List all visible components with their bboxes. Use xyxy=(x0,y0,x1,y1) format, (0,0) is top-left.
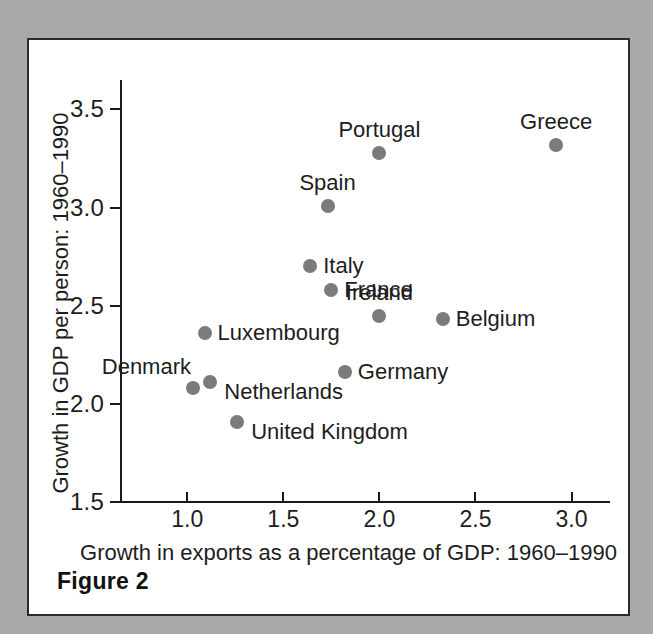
x-axis-tick-label: 1.5 xyxy=(267,508,299,531)
x-axis-tick-label: 3.0 xyxy=(556,508,588,531)
x-axis-tick xyxy=(282,492,284,503)
data-point-label: Greece xyxy=(520,111,592,133)
data-point xyxy=(230,415,244,429)
x-axis-tick-label: 1.0 xyxy=(171,508,203,531)
data-point xyxy=(372,146,386,160)
x-axis-tick xyxy=(474,492,476,503)
x-axis-tick-label: 2.0 xyxy=(363,508,395,531)
y-axis-line xyxy=(120,80,122,503)
data-point xyxy=(549,138,563,152)
data-point xyxy=(198,326,212,340)
x-axis-title: Growth in exports as a percentage of GDP… xyxy=(29,540,628,566)
data-point xyxy=(321,199,335,213)
y-axis-tick xyxy=(110,501,121,503)
y-axis-tick xyxy=(110,305,121,307)
x-axis-tick xyxy=(571,492,573,503)
figure-panel: 1.52.02.53.03.5 1.01.52.02.53.0 GreecePo… xyxy=(27,38,630,616)
data-point xyxy=(324,283,338,297)
data-point-label: Germany xyxy=(358,361,448,383)
data-point-label: Denmark xyxy=(102,356,191,378)
data-point xyxy=(303,259,317,273)
data-point xyxy=(372,309,386,323)
data-point xyxy=(203,375,217,389)
y-axis-tick xyxy=(110,108,121,110)
x-axis-tick xyxy=(378,492,380,503)
y-axis-tick xyxy=(110,207,121,209)
y-axis-title: Growth in GDP per person: 1960–1990 xyxy=(48,103,74,503)
data-point-label: Luxembourg xyxy=(218,322,340,344)
y-axis-tick xyxy=(110,403,121,405)
data-point-label: Spain xyxy=(299,172,355,194)
data-point-label: Ireland xyxy=(346,282,413,304)
x-axis-tick-label: 2.5 xyxy=(459,508,491,531)
figure-caption: Figure 2 xyxy=(57,568,149,595)
data-point-label: Belgium xyxy=(456,308,535,330)
figure-root: 1.52.02.53.03.5 1.01.52.02.53.0 GreecePo… xyxy=(0,0,653,634)
data-point-label: Netherlands xyxy=(224,381,343,403)
x-axis-line xyxy=(120,501,610,503)
data-point-label: Italy xyxy=(323,255,363,277)
data-point xyxy=(338,365,352,379)
x-axis-tick xyxy=(186,492,188,503)
scatter-plot: 1.52.02.53.03.5 1.01.52.02.53.0 GreecePo… xyxy=(29,40,628,614)
data-point xyxy=(186,381,200,395)
data-point-label: United Kingdom xyxy=(251,421,408,443)
data-point-label: Portugal xyxy=(338,119,420,141)
data-point xyxy=(436,312,450,326)
